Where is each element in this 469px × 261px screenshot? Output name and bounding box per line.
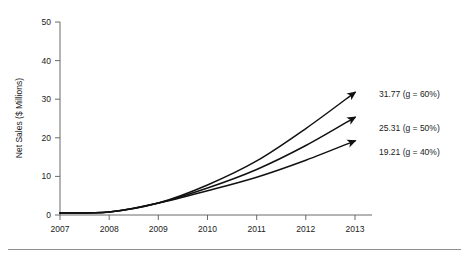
y-tick-label-10: 10 (42, 171, 52, 181)
y-tick-label-50: 50 (42, 17, 52, 27)
x-tick-label-2013: 2013 (346, 224, 365, 234)
footer-horizontal-rule (8, 249, 461, 250)
y-tick-label-30: 30 (42, 94, 52, 104)
x-tick-label-2012: 2012 (296, 224, 315, 234)
x-tick-label-2007: 2007 (51, 224, 70, 234)
x-tick-label-2011: 2011 (248, 224, 267, 234)
x-axis-ticks (60, 215, 355, 220)
x-tick-label-2008: 2008 (100, 224, 119, 234)
annotation-label-g60: 31.77 (g = 60%) (379, 89, 440, 99)
x-axis-tick-labels: 2007 2008 2009 2010 2011 2012 2013 (51, 224, 365, 234)
x-tick-label-2009: 2009 (149, 224, 168, 234)
series-end-annotations: 31.77 (g = 60%) 25.31 (g = 50%) 19.21 (g… (379, 89, 440, 157)
y-axis-tick-labels: 0 10 20 30 40 50 (42, 17, 52, 220)
y-tick-label-20: 20 (42, 133, 52, 143)
figure-container: 0 10 20 30 40 50 Net Sales ($ Millions) … (0, 0, 469, 261)
y-axis-ticks (55, 22, 60, 215)
y-tick-label-40: 40 (42, 56, 52, 66)
series-lines-group (60, 92, 355, 213)
y-axis-title: Net Sales ($ Millions) (14, 78, 24, 158)
annotation-label-g40: 19.21 (g = 40%) (379, 147, 440, 157)
series-line-g40 (60, 141, 355, 213)
x-tick-label-2010: 2010 (198, 224, 217, 234)
annotation-label-g50: 25.31 (g = 50%) (379, 123, 440, 133)
net-sales-growth-line-chart: 0 10 20 30 40 50 Net Sales ($ Millions) … (0, 0, 469, 261)
y-tick-label-0: 0 (46, 210, 51, 220)
series-line-g50 (60, 117, 355, 213)
series-line-g60 (60, 92, 355, 213)
